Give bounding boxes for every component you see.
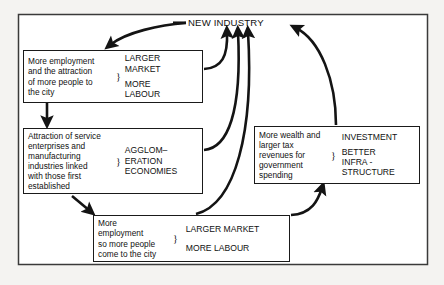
node-4-brace: } — [329, 132, 338, 178]
node-2-description: Attraction of service enterprises and ma… — [24, 131, 114, 192]
node-box-more-employment-more-people[interactable]: More employment so more people come to t… — [93, 215, 290, 262]
node-box-more-wealth-tax-revenues[interactable]: More wealth and larger tax revenues for … — [254, 126, 420, 184]
node-3-effect-larger-market: LARGER MARKET — [184, 224, 260, 234]
node-3-effects: LARGER MARKET MORE LABOUR — [180, 224, 260, 254]
diagram-root: NEW INDUSTRY More employment and the att… — [0, 0, 444, 285]
node-2-brace: } — [114, 134, 123, 188]
node-3-effect-more-labour: MORE LABOUR — [184, 243, 260, 253]
node-4-effects: INVESTMENT BETTER INFRA - STRUCTURE — [338, 132, 397, 178]
node-3-brace: } — [171, 221, 180, 257]
node-2-effects: AGGLOM– ERATION ECONOMIES — [123, 145, 178, 176]
node-3-description: More employment so more people come to t… — [94, 218, 171, 258]
node-4-effect-better-infrastructure: BETTER INFRA - STRUCTURE — [340, 147, 397, 178]
node-1-effect-more-labour: MORE LABOUR — [123, 79, 161, 100]
node-1-effects: LARGER MARKET MORE LABOUR — [123, 53, 161, 100]
node-1-brace: } — [114, 57, 123, 97]
node-1-effect-larger-market: LARGER MARKET — [123, 53, 161, 74]
node-4-description: More wealth and larger tax revenues for … — [255, 130, 329, 181]
node-2-effect-agglomeration-economies: AGGLOM– ERATION ECONOMIES — [123, 145, 178, 176]
diagram-title: NEW INDUSTRY — [188, 17, 264, 28]
node-1-description: More employment and the attraction of mo… — [24, 56, 114, 96]
node-box-attraction-service-enterprises[interactable]: Attraction of service enterprises and ma… — [23, 128, 203, 194]
node-box-more-employment-city[interactable]: More employment and the attraction of mo… — [23, 50, 203, 103]
node-4-effect-investment: INVESTMENT — [340, 132, 397, 142]
node-3-effects-spacer — [184, 234, 260, 243]
